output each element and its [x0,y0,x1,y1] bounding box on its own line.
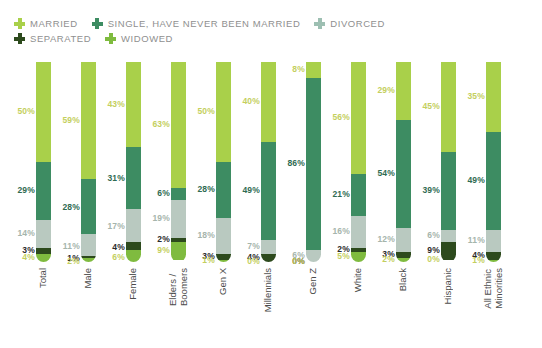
bar-column: 63%6%19%2%9% [155,55,200,270]
segment-value-label: 59% [62,115,80,125]
segment-value-label: 1% [472,255,485,265]
bar-column: 45%39%6%9%0% [425,55,470,270]
segment-value-label: 6% [112,252,125,262]
x-axis-label-text: Black [397,268,408,291]
stacked-bar [261,62,276,262]
x-axis-label-text: All Ethnic Minorities [482,268,504,309]
plus-icon [14,18,25,29]
segment-value-label: 5% [337,251,350,261]
x-axis-label: White [335,268,380,348]
x-axis-label: Hispanic [425,268,470,348]
bar-column: 56%21%16%2%5% [335,55,380,270]
segment-value-label: 4% [22,252,35,262]
bar-column: 50%29%14%3%4% [20,55,65,270]
segment-value-label: 86% [287,158,305,168]
stacked-bar [351,62,366,262]
bar-segment [441,230,456,242]
legend-item: DIVORCED [314,18,385,29]
bar-segment [126,242,141,250]
stacked-bar [306,62,321,262]
bar-segment [216,218,231,254]
legend-item: WIDOWED [105,33,173,44]
segment-value-label: 63% [152,119,170,129]
x-axis-label-text: Millennials [262,268,273,312]
bar-segment [126,250,141,262]
segment-value-label: 19% [152,213,170,223]
bar-segment [306,250,321,262]
stacked-bar [81,62,96,262]
plus-icon [14,33,25,44]
segment-value-label: 29% [377,85,395,95]
segment-value-label: 2% [382,254,395,264]
segment-value-label: 31% [107,173,125,183]
bar-segment [81,62,96,179]
stacked-bar [171,62,186,262]
x-axis-label-text: White [352,268,363,292]
bar-segment [216,62,231,162]
bar-segment [306,78,321,250]
segment-value-label: 28% [197,184,215,194]
bar-segment [261,142,276,240]
plus-icon [105,33,116,44]
stacked-bar [396,62,411,262]
segment-value-label: 4% [112,242,125,252]
x-axis-label: Male [65,268,110,348]
bar-segment [396,228,411,252]
bar-column: 43%31%17%4%6% [110,55,155,270]
bar-segment [351,62,366,174]
segment-value-label: 21% [332,189,350,199]
segment-value-label: 2% [67,256,80,266]
segment-value-label: 50% [17,106,35,116]
segment-value-label: 50% [197,106,215,116]
x-axis-label-text: Gen Z [307,268,318,294]
bar-column: 40%49%7%4%0% [245,55,290,270]
stacked-bar [441,62,456,262]
bar-segment [36,62,51,162]
bar-segment [171,62,186,188]
bar-segment [126,62,141,147]
bar-segment [216,260,231,262]
bar-segment [486,132,501,230]
bar-segment [486,252,501,260]
segment-value-label: 45% [422,101,440,111]
bar-segment [441,152,456,230]
legend-label: DIVORCED [330,18,385,29]
segment-value-label: 43% [107,99,125,109]
bar-segment [171,188,186,200]
bar-segment [126,147,141,208]
bar-segment [486,230,501,252]
bar-segment [486,62,501,132]
segment-value-label: 40% [242,96,260,106]
x-axis-label: Elders / Boomers [155,268,200,348]
bar-segment [126,209,141,243]
x-axis-label: Black [380,268,425,348]
segment-value-label: 11% [468,235,485,245]
x-axis-label-text: Male [82,268,93,289]
bar-segment [81,258,96,262]
plus-icon [314,18,325,29]
segment-value-label: 54% [377,168,395,178]
x-axis-labels: TotalMaleFemaleElders / BoomersGen XMill… [0,268,542,348]
segment-value-label: 2% [157,234,170,244]
segment-value-label: 6% [427,230,440,240]
page-title: MARGINALIZED PRACTICING CHRISTIANS [42,0,391,4]
segment-value-label: 28% [62,202,80,212]
x-axis-label: Millennials [245,268,290,348]
legend-label: SEPARATED [30,33,91,44]
segment-value-label: 0% [292,256,305,266]
legend-item: SINGLE, HAVE NEVER BEEN MARRIED [92,18,301,29]
segment-value-label: 18% [197,230,215,240]
segment-value-label: 29% [17,185,35,195]
plus-icon [92,18,103,29]
segment-value-label: 0% [247,256,260,266]
bar-segment [171,200,186,238]
segment-value-label: 6% [157,188,170,198]
bar-segment [396,62,411,120]
segment-value-label: 0% [427,254,440,264]
legend-label: WIDOWED [121,33,173,44]
segment-value-label: 49% [467,175,485,185]
segment-value-label: 14% [17,228,35,238]
bar-segment [261,254,276,262]
bar-column: 35%49%11%4%1% [470,55,515,270]
stacked-bar [486,62,501,262]
